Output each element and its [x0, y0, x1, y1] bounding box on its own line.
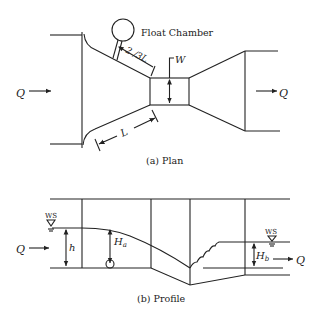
ws-left-label: WS	[45, 212, 57, 220]
dim-Hb-label: Hb	[255, 250, 270, 263]
profile-hydraulic-jump	[190, 242, 290, 268]
profile-caption: (b) Profile	[137, 293, 186, 304]
dim-L-label: L	[118, 126, 130, 139]
dim-tick-upper-end	[151, 66, 155, 76]
ws-right-label: WS	[265, 228, 277, 236]
plan-view: W Float Chamber 2 /3L L Q Q (a) Plan	[16, 19, 288, 166]
float-chamber-label: Float Chamber	[141, 27, 214, 38]
flume-diagram: W Float Chamber 2 /3L L Q Q (a) Plan	[0, 0, 330, 316]
float-chamber-icon	[112, 19, 134, 41]
profile-flow-out-label: Q	[296, 254, 305, 267]
float-pipe-a	[113, 40, 118, 58]
dim-L-arrow-right	[134, 118, 155, 128]
plan-diverging-wall-top	[189, 51, 245, 78]
profile-view: WS WS h Ha Hb Q Q (b) Profile	[16, 199, 305, 304]
profile-floor	[50, 268, 290, 285]
dim-Ha-label: Ha	[113, 236, 127, 249]
dim-tick-lower-start	[95, 139, 100, 151]
dim-h-label: h	[69, 242, 75, 253]
dim-tick-lower-end	[152, 110, 158, 122]
plan-caption: (a) Plan	[146, 155, 183, 166]
ws-right-triangle-icon	[268, 236, 276, 241]
profile-flow-in-label: Q	[16, 243, 25, 256]
throat-width-label: W	[175, 54, 186, 65]
throat-width-leader	[170, 58, 175, 78]
dim-two-thirds-L-label: 2 /3L	[123, 44, 149, 64]
float-pipe-b	[117, 41, 122, 60]
plan-flow-in-label: Q	[16, 87, 25, 100]
plan-diverging-wall-bottom	[189, 105, 245, 131]
dim-L-arrow-left	[99, 136, 117, 144]
ws-left-triangle-icon	[47, 220, 55, 226]
plan-flow-out-label: Q	[279, 87, 288, 100]
